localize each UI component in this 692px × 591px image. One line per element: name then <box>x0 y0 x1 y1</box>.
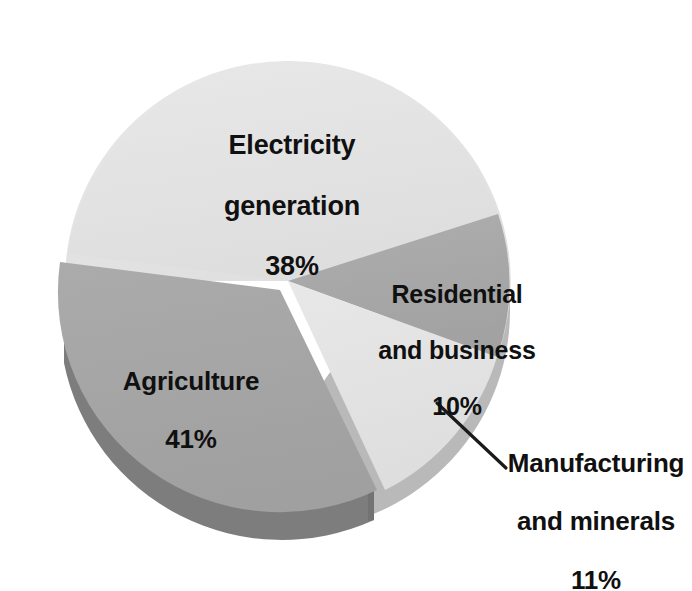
slice-label-manufacturing-and-minerals: Manufacturing and minerals 11% <box>500 420 692 591</box>
slice-label-line1: Agriculture <box>96 367 286 396</box>
slice-label-line1: Electricity <box>180 130 404 160</box>
slice-label-value: 10% <box>366 392 548 420</box>
slice-label-line1: Residential <box>366 280 548 308</box>
slice-label-agriculture: Agriculture 41% <box>96 338 286 484</box>
slice-label-line1: Manufacturing <box>500 449 692 478</box>
slice-label-residential-and-business: Residential and business 10% <box>366 252 548 448</box>
slice-label-value: 41% <box>96 425 286 454</box>
slice-label-line2: generation <box>180 191 404 221</box>
slice-label-value: 11% <box>500 566 692 591</box>
slice-label-line2: and minerals <box>500 507 692 536</box>
slice-label-line2: and business <box>366 336 548 364</box>
pie-chart-figure: Electricity generation 38% Residential a… <box>0 0 692 591</box>
